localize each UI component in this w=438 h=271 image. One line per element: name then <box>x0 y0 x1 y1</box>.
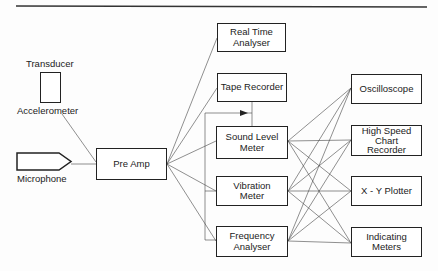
preamp-box: Pre Amp <box>96 148 167 180</box>
xy-plotter-box: X - Y Plotter <box>351 176 422 206</box>
microphone-icon <box>17 153 71 170</box>
sound-level-meter-box: Sound Level Meter <box>216 126 288 159</box>
vibration-meter-box: Vibration Meter <box>216 176 288 206</box>
microphone-label: Microphone <box>17 173 67 184</box>
measurement-system-diagram: Transducer Accelerometer Microphone Pre … <box>0 0 438 271</box>
oscilloscope-box: Oscilloscope <box>351 74 422 104</box>
frequency-analyser-box: Frequency Analyser <box>216 226 288 257</box>
accelerometer-label: Accelerometer <box>17 105 78 116</box>
real-time-analyser-box: Real Time Analyser <box>217 23 286 52</box>
accelerometer-box <box>40 72 61 103</box>
indicating-meters-box: Indicating Meters <box>351 227 422 257</box>
high-speed-chart-recorder-box: High Speed Chart Recorder <box>351 125 422 156</box>
transducer-label: Transducer <box>26 58 74 69</box>
tape-recorder-box: Tape Recorder <box>217 73 287 102</box>
